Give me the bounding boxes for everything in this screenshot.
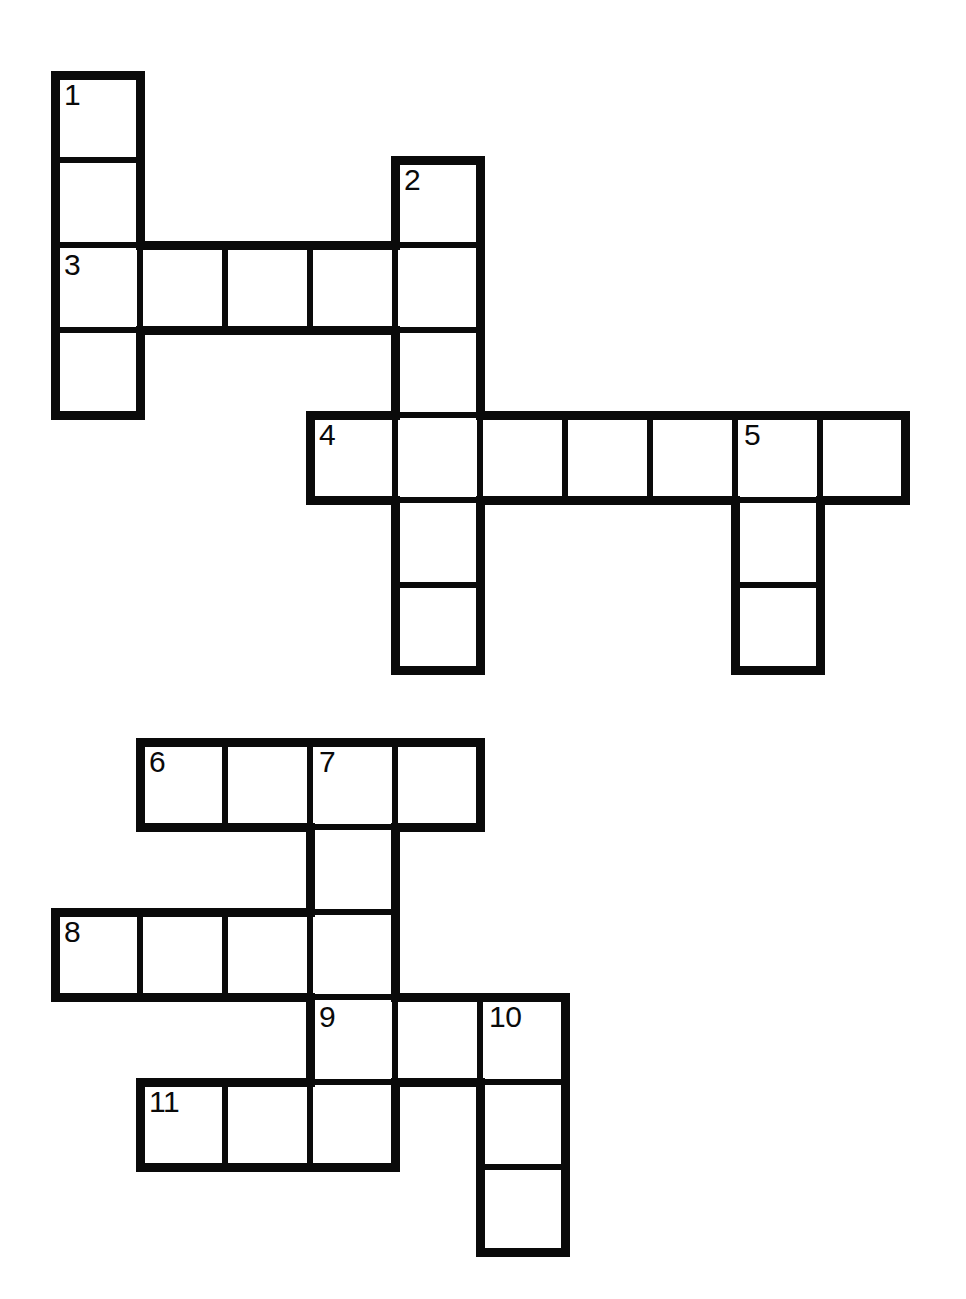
grid-outline-bottom xyxy=(816,496,910,505)
crossword-cell[interactable] xyxy=(225,1082,310,1167)
grid-outline-left xyxy=(136,738,145,832)
clue-number-2: 2 xyxy=(404,164,420,196)
crossword-cell[interactable] xyxy=(395,742,480,827)
grid-outline-right xyxy=(476,581,485,675)
grid-outline-left xyxy=(476,1163,485,1257)
grid-outline-top xyxy=(476,993,570,1002)
grid-outline-right xyxy=(476,156,485,250)
crossword-cell[interactable] xyxy=(820,415,905,500)
crossword-cell-5[interactable]: 5 xyxy=(735,415,820,500)
grid-outline-top xyxy=(391,993,485,1002)
grid-outline-left xyxy=(51,241,60,335)
grid-outline-left xyxy=(391,326,400,420)
grid-outline-left xyxy=(51,156,60,250)
grid-outline-right xyxy=(561,993,570,1087)
crossword-cell[interactable] xyxy=(310,827,395,912)
clue-number-8: 8 xyxy=(64,916,80,948)
crossword-cell-10[interactable]: 10 xyxy=(480,997,565,1082)
crossword-cell[interactable] xyxy=(480,1082,565,1167)
crossword-cell[interactable] xyxy=(395,245,480,330)
crossword-cell-7[interactable]: 7 xyxy=(310,742,395,827)
grid-outline-bottom xyxy=(136,823,230,832)
crossword-cell[interactable] xyxy=(140,245,225,330)
crossword-cell-2[interactable]: 2 xyxy=(395,160,480,245)
crossword-cell-3[interactable]: 3 xyxy=(55,245,140,330)
grid-outline-top xyxy=(221,908,315,917)
grid-outline-right xyxy=(391,823,400,917)
crossword-cell[interactable] xyxy=(395,585,480,670)
grid-outline-left xyxy=(476,1078,485,1172)
crossword-cell[interactable] xyxy=(225,245,310,330)
crossword-cell[interactable] xyxy=(735,585,820,670)
crossword-cell-1[interactable]: 1 xyxy=(55,75,140,160)
grid-outline-left xyxy=(51,908,60,1002)
crossword-cell[interactable] xyxy=(395,500,480,585)
grid-outline-right xyxy=(476,241,485,335)
grid-outline-right xyxy=(901,411,910,505)
grid-outline-bottom xyxy=(221,823,315,832)
clue-number-1: 1 xyxy=(64,79,80,111)
grid-outline-bottom xyxy=(306,326,400,335)
grid-outline-bottom xyxy=(136,1163,230,1172)
grid-outline-left xyxy=(51,71,60,165)
grid-outline-top xyxy=(476,411,570,420)
grid-outline-right xyxy=(816,581,825,675)
grid-outline-top xyxy=(391,156,485,165)
grid-outline-top xyxy=(306,411,400,420)
crossword-cell[interactable] xyxy=(480,1167,565,1252)
crossword-cell[interactable] xyxy=(395,415,480,500)
grid-outline-top xyxy=(136,908,230,917)
clue-number-10: 10 xyxy=(489,1001,521,1033)
grid-outline-right xyxy=(476,326,485,420)
crossword-cell[interactable] xyxy=(565,415,650,500)
crossword-cell-9[interactable]: 9 xyxy=(310,997,395,1082)
grid-outline-top xyxy=(51,71,145,80)
grid-outline-top xyxy=(136,1078,230,1087)
crossword-cell[interactable] xyxy=(225,912,310,997)
grid-outline-left xyxy=(136,1078,145,1172)
crossword-cell[interactable] xyxy=(310,912,395,997)
grid-outline-bottom xyxy=(136,993,230,1002)
clue-number-6: 6 xyxy=(149,746,165,778)
grid-outline-left xyxy=(51,326,60,420)
crossword-cell-8[interactable]: 8 xyxy=(55,912,140,997)
grid-outline-top xyxy=(221,738,315,747)
grid-outline-top xyxy=(816,411,910,420)
clue-number-7: 7 xyxy=(319,746,335,778)
grid-outline-right xyxy=(136,156,145,250)
crossword-cell-4[interactable]: 4 xyxy=(310,415,395,500)
crossword-cell[interactable] xyxy=(650,415,735,500)
grid-outline-right xyxy=(816,496,825,590)
grid-outline-top xyxy=(221,241,315,250)
clue-number-9: 9 xyxy=(319,1001,335,1033)
grid-outline-top xyxy=(136,241,230,250)
grid-outline-left xyxy=(391,156,400,250)
grid-outline-bottom xyxy=(646,496,740,505)
crossword-cell[interactable] xyxy=(310,245,395,330)
grid-outline-left xyxy=(306,993,315,1087)
crossword-cell[interactable] xyxy=(225,742,310,827)
crossword-cell[interactable] xyxy=(735,500,820,585)
grid-outline-bottom xyxy=(476,496,570,505)
crossword-cell[interactable] xyxy=(55,330,140,415)
grid-outline-right xyxy=(136,71,145,165)
clue-number-11: 11 xyxy=(149,1086,179,1118)
crossword-cell[interactable] xyxy=(395,330,480,415)
crossword-cell[interactable] xyxy=(55,160,140,245)
grid-outline-bottom xyxy=(476,1248,570,1257)
grid-outline-bottom xyxy=(221,326,315,335)
crossword-cell-11[interactable]: 11 xyxy=(140,1082,225,1167)
grid-outline-left xyxy=(306,823,315,917)
crossword-cell[interactable] xyxy=(140,912,225,997)
grid-outline-bottom xyxy=(391,823,485,832)
crossword-cell[interactable] xyxy=(310,1082,395,1167)
crossword-cell[interactable] xyxy=(395,997,480,1082)
crossword-cell-6[interactable]: 6 xyxy=(140,742,225,827)
grid-outline-bottom xyxy=(561,496,655,505)
crossword-cell[interactable] xyxy=(480,415,565,500)
grid-outline-right xyxy=(561,1078,570,1172)
grid-outline-top xyxy=(731,411,825,420)
grid-outline-bottom xyxy=(391,666,485,675)
grid-outline-left xyxy=(306,411,315,505)
grid-outline-right xyxy=(476,738,485,832)
